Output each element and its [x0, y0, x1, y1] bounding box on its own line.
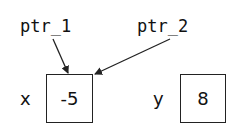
ptr-2-label: ptr_2	[137, 18, 188, 35]
x-value-box: -5	[46, 74, 93, 123]
ptr-2-arrow	[95, 39, 170, 74]
x-label: x	[20, 90, 31, 108]
x-value: -5	[61, 88, 79, 109]
y-value-box: 8	[180, 74, 226, 123]
y-value: 8	[197, 88, 208, 109]
pointer-diagram: ptr_1 ptr_2 x -5 y 8	[0, 0, 238, 131]
y-label: y	[153, 90, 164, 108]
ptr-1-label: ptr_1	[20, 18, 71, 35]
ptr-1-arrow	[53, 39, 68, 73]
